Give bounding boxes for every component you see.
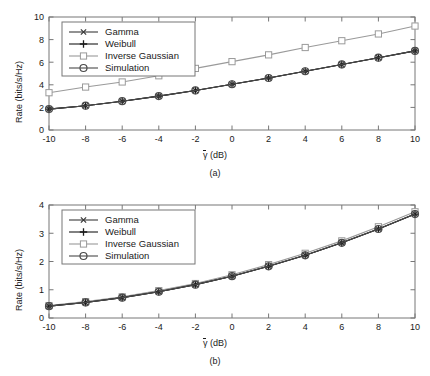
svg-text:-10: -10 [42, 322, 55, 332]
svg-text:0: 0 [39, 125, 44, 135]
chart-panel-b: Rate (bits/s/Hz) -10-8-6-4-2024681001234… [0, 188, 430, 376]
caption-a: (a) [0, 168, 430, 178]
svg-text:-10: -10 [42, 134, 55, 144]
svg-text:0: 0 [229, 322, 234, 332]
svg-text:3: 3 [39, 229, 44, 239]
svg-text:6: 6 [39, 58, 44, 68]
svg-text:Gamma: Gamma [105, 26, 140, 37]
svg-text:0: 0 [39, 313, 44, 323]
gamma-bar-symbol-b: γ [203, 338, 208, 348]
svg-text:10: 10 [34, 12, 44, 22]
svg-text:-6: -6 [118, 134, 126, 144]
caption-b: (b) [0, 356, 430, 366]
svg-text:8: 8 [376, 134, 381, 144]
x-axis-label-a: γ (dB) [0, 150, 430, 160]
svg-text:4: 4 [39, 200, 44, 210]
svg-text:Inverse Gaussian: Inverse Gaussian [105, 238, 179, 249]
svg-text:-4: -4 [155, 322, 163, 332]
svg-text:2: 2 [39, 103, 44, 113]
svg-text:8: 8 [39, 35, 44, 45]
x-axis-unit-a: (dB) [207, 150, 227, 160]
svg-text:4: 4 [39, 80, 44, 90]
svg-text:-2: -2 [191, 134, 199, 144]
svg-text:-8: -8 [82, 134, 90, 144]
svg-text:-8: -8 [82, 322, 90, 332]
svg-text:-2: -2 [191, 322, 199, 332]
plot-svg-a: -10-8-6-4-202468100246810GammaWeibullInv… [0, 0, 430, 150]
x-axis-unit-b: (dB) [207, 338, 227, 348]
svg-text:-6: -6 [118, 322, 126, 332]
svg-text:Weibull: Weibull [105, 226, 136, 237]
plot-area-a: -10-8-6-4-202468100246810GammaWeibullInv… [0, 0, 430, 150]
svg-text:4: 4 [303, 322, 308, 332]
svg-text:4: 4 [303, 134, 308, 144]
svg-text:Inverse Gaussian: Inverse Gaussian [105, 50, 179, 61]
svg-text:Weibull: Weibull [105, 38, 136, 49]
svg-text:2: 2 [266, 322, 271, 332]
plot-svg-b: -10-8-6-4-2024681001234GammaWeibullInver… [0, 188, 430, 338]
plot-area-b: -10-8-6-4-2024681001234GammaWeibullInver… [0, 188, 430, 338]
svg-text:1: 1 [39, 285, 44, 295]
svg-text:Simulation: Simulation [105, 250, 149, 261]
svg-text:2: 2 [39, 257, 44, 267]
svg-text:0: 0 [229, 134, 234, 144]
svg-text:10: 10 [410, 134, 420, 144]
figure-container: Rate (bits/s/Hz) -10-8-6-4-2024681002468… [0, 0, 430, 376]
svg-text:2: 2 [266, 134, 271, 144]
svg-text:6: 6 [339, 134, 344, 144]
gamma-bar-symbol-a: γ [203, 150, 208, 160]
svg-text:10: 10 [410, 322, 420, 332]
svg-text:-4: -4 [155, 134, 163, 144]
svg-text:Simulation: Simulation [105, 62, 149, 73]
svg-text:6: 6 [339, 322, 344, 332]
chart-panel-a: Rate (bits/s/Hz) -10-8-6-4-2024681002468… [0, 0, 430, 188]
svg-text:8: 8 [376, 322, 381, 332]
x-axis-label-b: γ (dB) [0, 338, 430, 348]
svg-text:Gamma: Gamma [105, 214, 140, 225]
